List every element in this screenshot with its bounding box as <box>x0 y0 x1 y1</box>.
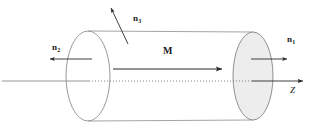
magnetization-vector-label: M <box>163 46 172 56</box>
normal-vector-n1-subscript: 1 <box>292 39 295 45</box>
figure-canvas <box>0 0 314 135</box>
normal-vector-n2-label: n2 <box>52 43 60 52</box>
z-axis-label: Z <box>290 86 295 95</box>
normal-vector-n3-label: n3 <box>133 14 141 23</box>
cylinder-right-end-face <box>233 32 273 120</box>
cylinder-left-end-face <box>66 31 110 121</box>
normal-vector-n3-arrow <box>111 8 128 44</box>
cylinder-bottom-edge <box>88 120 253 121</box>
normal-vector-n1-label: n1 <box>287 35 295 44</box>
normal-vector-n2-subscript: 2 <box>57 47 60 53</box>
cylinder-top-edge <box>88 31 253 32</box>
cylinder-magnetization-figure: M n1 n2 n3 Z <box>0 0 314 135</box>
normal-vector-n3-subscript: 3 <box>138 18 141 24</box>
